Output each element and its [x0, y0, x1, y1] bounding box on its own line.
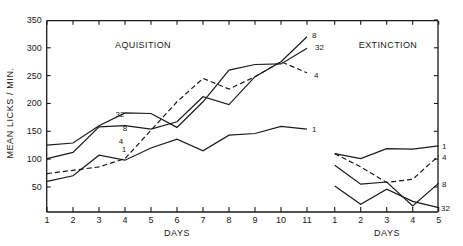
acquisition-series-32 [47, 48, 307, 145]
x-tick-label: 11 [302, 215, 311, 225]
line-chart: 50100150200250300350 123456789101112345 … [0, 0, 463, 246]
acquisition-inline-label-8: 8 [123, 124, 128, 133]
extinction-label-1: 1 [442, 142, 447, 151]
x-tick-label: 1 [332, 215, 337, 225]
y-tick-label: 250 [27, 71, 42, 81]
y-tick-label: 200 [27, 98, 42, 108]
acquisition-label-8: 8 [312, 31, 317, 40]
x-tick-label: 7 [200, 215, 205, 225]
x-tick-label: 4 [122, 215, 127, 225]
x-tick-label: 9 [252, 215, 257, 225]
y-tick-label: 350 [27, 15, 42, 25]
extinction-label-8: 8 [442, 180, 447, 189]
y-tick-labels: 50100150200250300350 [27, 15, 42, 192]
extinction-label-32: 32 [441, 204, 450, 213]
y-tick-label: 100 [27, 154, 42, 164]
acquisition-inline-label-32: 32 [116, 110, 125, 119]
x-tick-label: 2 [358, 215, 363, 225]
extinction-series-8 [335, 165, 439, 206]
acquisition-label-1: 1 [312, 125, 317, 134]
extinction-title: EXTINCTION [359, 40, 418, 50]
x-tick-label: 3 [384, 215, 389, 225]
acquisition-series-8 [47, 37, 307, 159]
extinction-series-4 [335, 154, 439, 183]
x-tick-label: 3 [96, 215, 101, 225]
x-tick-labels: 123456789101112345 [44, 215, 441, 225]
extinction-x-axis-title: DAYS [374, 228, 400, 238]
x-tick-label: 10 [276, 215, 286, 225]
x-tick-label: 5 [148, 215, 153, 225]
acquisition-title: AQUISITION [115, 40, 171, 50]
x-tick-label: 4 [410, 215, 415, 225]
x-tick-label: 8 [226, 215, 231, 225]
extinction-series-1 [335, 146, 439, 159]
series-lines [47, 37, 439, 208]
acquisition-series-4 [47, 62, 307, 174]
x-tick-label: 5 [436, 215, 441, 225]
x-tick-label: 1 [44, 215, 49, 225]
acquisition-label-32: 32 [315, 43, 324, 52]
y-tick-label: 150 [27, 126, 42, 136]
x-tick-label: 6 [174, 215, 179, 225]
acquisition-label-4: 4 [314, 71, 319, 80]
acquisition-inline-label-1: 1 [122, 145, 127, 154]
y-tick-label: 300 [27, 43, 42, 53]
acquisition-x-axis-title: DAYS [164, 228, 190, 238]
y-axis-title: MEAN LICKS / MIN. [5, 67, 15, 158]
x-tick-label: 2 [70, 215, 75, 225]
extinction-label-4: 4 [442, 153, 447, 162]
y-tick-label: 50 [32, 182, 42, 192]
